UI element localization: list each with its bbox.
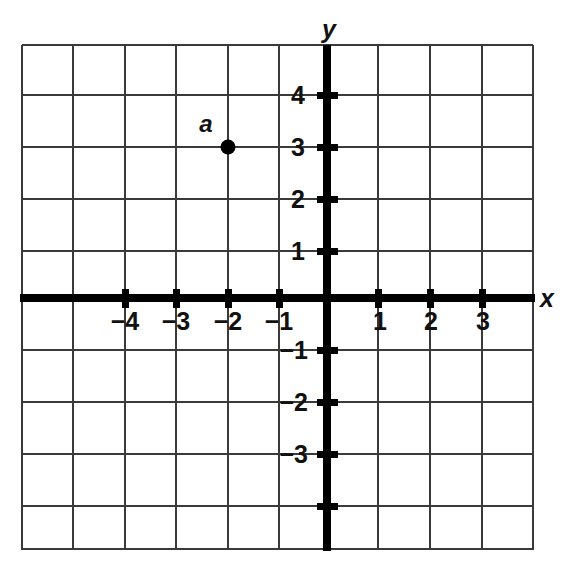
x-tick-label: 2	[424, 307, 438, 335]
x-tick-label: −3	[162, 307, 191, 335]
coordinate-plane-canvas: −4 −3 −2 −1 1 2 3 4 3 2 1 −1 −2 −3 y x a	[0, 0, 565, 571]
figure-background	[0, 0, 565, 571]
y-tick-label: 3	[291, 133, 305, 161]
x-tick-label: −4	[111, 307, 140, 335]
point-label: a	[199, 110, 212, 137]
y-tick-label: 1	[291, 237, 305, 265]
y-tick-label: −1	[279, 336, 308, 364]
x-tick-label: 1	[373, 307, 387, 335]
coordinate-plane-figure: −4 −3 −2 −1 1 2 3 4 3 2 1 −1 −2 −3 y x a	[0, 0, 565, 571]
x-axis-label: x	[538, 284, 555, 312]
x-tick-label: −1	[265, 307, 294, 335]
y-tick-label: 4	[291, 81, 305, 109]
x-tick-label: 3	[476, 307, 490, 335]
y-tick-label: −3	[279, 440, 308, 468]
point-marker-dot	[221, 140, 236, 155]
y-tick-label: −2	[279, 388, 308, 416]
y-axis-label: y	[320, 15, 337, 43]
y-tick-label: 2	[291, 185, 305, 213]
x-tick-label: −2	[214, 307, 243, 335]
